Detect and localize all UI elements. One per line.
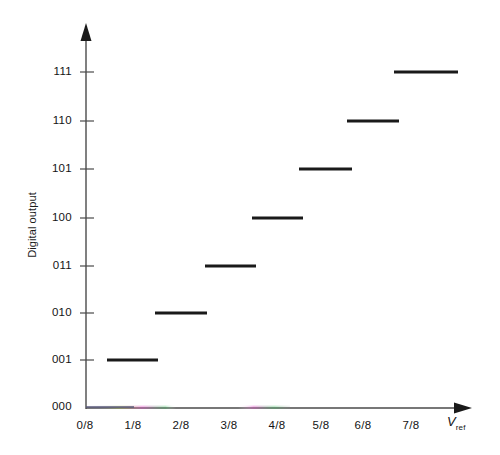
staircase-steps [86,72,458,407]
y-tick-label-100: 100 [24,211,72,223]
x-axis-label-main: V [447,414,456,429]
x-axis-label-sub: ref [456,423,466,432]
x-tick-label-1-8: 1/8 [109,419,157,431]
y-tick-label-001: 001 [24,353,72,365]
y-tick-label-011: 011 [24,259,72,271]
adc-transfer-function-chart: Digital output 111 110 101 100 011 010 0… [0,0,500,455]
x-axis-label: Vref [447,414,466,432]
x-tick-label-6-8: 6/8 [339,419,387,431]
chart-canvas [0,0,500,455]
y-tick-label-110: 110 [24,114,72,126]
x-tick-label-5-8: 5/8 [297,419,345,431]
x-axis-arrowhead [454,403,472,414]
x-tick-label-4-8: 4/8 [253,419,301,431]
y-tick-label-111: 111 [24,65,72,77]
x-tick-label-2-8: 2/8 [157,419,205,431]
x-tick-label-3-8: 3/8 [205,419,253,431]
y-axis-label-text: Digital output [26,192,38,258]
y-axis-ticks [80,72,94,360]
y-axis-arrowhead [81,23,92,41]
x-tick-label-0-8: 0/8 [61,419,109,431]
y-tick-label-000: 000 [24,400,72,412]
y-tick-label-010: 010 [24,306,72,318]
x-tick-label-7-8: 7/8 [387,419,435,431]
y-tick-label-101: 101 [24,162,72,174]
